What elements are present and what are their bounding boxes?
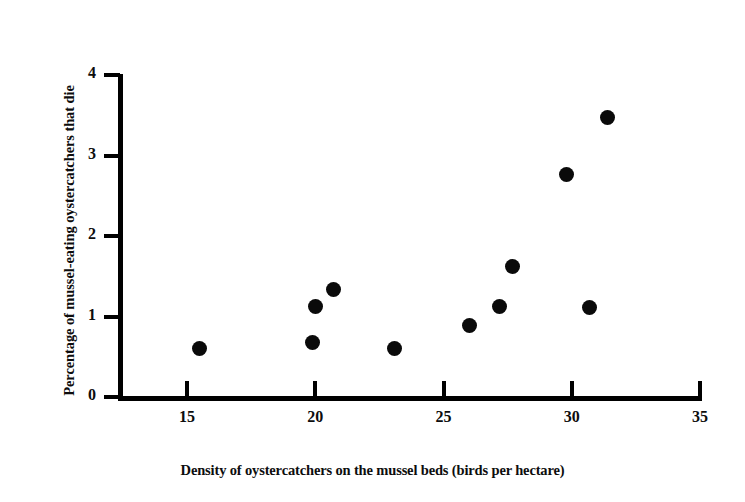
y-axis-title: Percentage of mussel-eating oystercatche… — [61, 46, 78, 436]
data-point — [492, 299, 507, 314]
y-tick-4 — [104, 73, 120, 77]
data-point — [308, 299, 323, 314]
x-tick-label-30: 30 — [552, 408, 592, 426]
x-tick-30 — [570, 381, 574, 397]
y-tick-0 — [104, 395, 120, 399]
data-point — [387, 341, 402, 356]
y-tick-3 — [104, 154, 120, 158]
data-point — [305, 335, 320, 350]
x-tick-15 — [185, 381, 189, 397]
x-axis-title: Density of oystercatchers on the mussel … — [0, 462, 745, 479]
data-point — [462, 318, 477, 333]
x-axis-spine — [118, 396, 702, 401]
x-tick-label-25: 25 — [424, 408, 464, 426]
data-point — [582, 300, 597, 315]
data-point — [600, 110, 615, 125]
y-tick-1 — [104, 315, 120, 319]
x-tick-25 — [442, 381, 446, 397]
x-tick-label-15: 15 — [167, 408, 207, 426]
data-point — [505, 259, 520, 274]
plot-area: 01234 1520253035 — [0, 0, 745, 502]
x-tick-20 — [313, 381, 317, 397]
x-tick-35 — [698, 381, 702, 397]
x-tick-label-35: 35 — [680, 408, 720, 426]
x-tick-label-20: 20 — [295, 408, 335, 426]
scatter-plot-figure: 01234 1520253035 Percentage of mussel-ea… — [0, 0, 745, 502]
data-point — [192, 341, 207, 356]
data-point — [559, 167, 574, 182]
y-tick-2 — [104, 234, 120, 238]
data-point — [326, 282, 341, 297]
